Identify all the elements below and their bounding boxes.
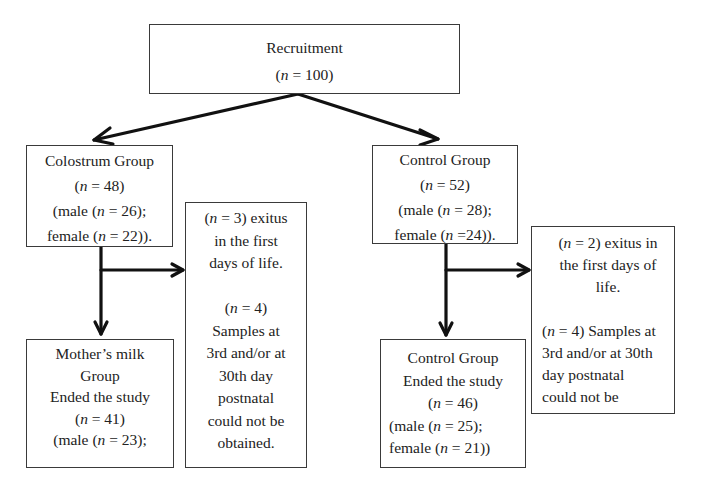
control-exclusion-line: (n = 2) exitus in [558,232,657,254]
colostrum-exclusions-box: (n = 3) exitus in the first days of life… [185,202,307,468]
control-exclusions-box: (n = 2) exitus in the first days of life… [531,226,675,414]
mothers-milk-group-label: Group [80,365,120,387]
arrowhead-control-exclusions [518,264,529,276]
mothers-milk-count: (n = 41) [75,408,125,430]
colostrum-group-female: female (n = 22)). [47,223,152,248]
colostrum-exclusion-line: postnatal [218,387,274,410]
control-ended-count: (n = 46) [428,392,478,415]
colostrum-exclusion-line: days of life. [209,252,283,275]
mothers-milk-title: Mother’s milk [56,343,145,365]
control-ended-female: female (n = 21)) [381,437,490,460]
mothers-milk-ended-box: Mother’s milk Group Ended the study (n =… [26,339,174,468]
control-group-box: Control Group (n = 52) (male (n = 28); f… [372,145,518,244]
arrowhead-control-ended [440,323,452,335]
colostrum-exclusion-line: could not be [208,410,285,433]
colostrum-exclusion-line: 30th day [219,365,273,388]
control-ended-label: Ended the study [403,370,503,393]
control-ended-title: Control Group [408,347,499,370]
control-exclusion-line: (n = 4) Samples at [542,320,656,342]
recruitment-title: Recruitment [266,34,343,61]
control-exclusion-line: day postnatal [542,364,624,386]
colostrum-exclusion-line: in the first [214,230,278,253]
arrowhead-colostrum [94,128,113,144]
colostrum-exclusion-line: obtained. [217,432,274,455]
colostrum-exclusion-line: 3rd and/or at [206,342,285,365]
control-group-male: (male (n = 28); [398,197,492,222]
control-exclusion-line: the first days of [560,254,657,276]
mothers-milk-male: (male (n = 23); [53,429,147,451]
control-group-count: (n = 52) [420,172,470,197]
mothers-milk-ended-label: Ended the study [50,386,150,408]
control-exclusion-line: could not be [542,386,619,408]
control-group-title: Control Group [400,147,491,172]
colostrum-group-title: Colostrum Group [45,148,154,173]
arrow-recruitment-to-control [298,94,438,139]
colostrum-exclusion-line: (n = 3) exitus [204,207,287,230]
colostrum-group-male: (male (n = 26); [53,198,147,223]
colostrum-group-count: (n = 48) [74,173,124,198]
arrowhead-mothers-milk [95,322,107,334]
colostrum-exclusion-line: (n = 4) [225,297,267,320]
arrow-recruitment-to-colostrum [94,94,298,140]
arrowhead-control [420,130,438,145]
arrowhead-colostrum-exclusions [172,264,183,276]
control-group-female: female (n =24)). [394,222,495,247]
colostrum-group-box: Colostrum Group (n = 48) (male (n = 26);… [26,145,173,247]
control-ended-male: (male (n = 25); [381,415,483,438]
colostrum-exclusion-line: Samples at [212,320,280,343]
control-exclusion-line: life. [596,276,621,298]
recruitment-box: Recruitment (n = 100) [149,24,460,94]
control-ended-box: Control Group Ended the study (n = 46) (… [380,339,526,468]
recruitment-count: (n = 100) [276,61,334,88]
control-exclusion-line: 3rd and/or at 30th [542,342,653,364]
